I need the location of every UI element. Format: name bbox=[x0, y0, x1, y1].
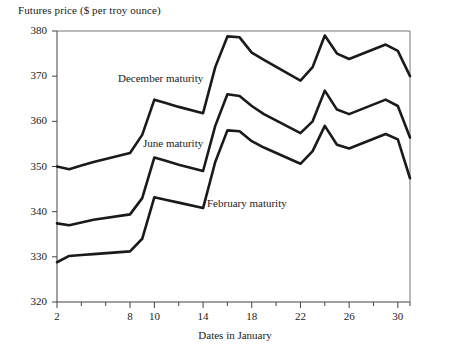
x-tick-label: 14 bbox=[188, 310, 218, 322]
y-tick-label: 350 bbox=[15, 160, 47, 172]
x-tick-label: 22 bbox=[285, 310, 315, 322]
x-tick-label: 10 bbox=[139, 310, 169, 322]
plot-frame bbox=[57, 31, 410, 302]
y-tick-label: 330 bbox=[15, 250, 47, 262]
y-tick-label: 380 bbox=[15, 24, 47, 36]
series-line-december bbox=[57, 36, 410, 170]
y-tick-label: 360 bbox=[15, 114, 47, 126]
x-tick-label: 26 bbox=[334, 310, 364, 322]
x-tick-label: 30 bbox=[383, 310, 413, 322]
plot-canvas bbox=[0, 0, 460, 357]
series-annotation: June maturity bbox=[143, 137, 203, 149]
x-tick-label: 18 bbox=[237, 310, 267, 322]
y-tick-label: 340 bbox=[15, 205, 47, 217]
axis-spines bbox=[57, 31, 410, 302]
series-annotation: February maturity bbox=[207, 197, 287, 209]
x-axis-title: Dates in January bbox=[0, 329, 460, 341]
y-tick-label: 370 bbox=[15, 69, 47, 81]
x-tick-label: 2 bbox=[42, 310, 72, 322]
series-annotation: December maturity bbox=[118, 72, 203, 84]
y-tick-label: 320 bbox=[15, 295, 47, 307]
x-axis-title-text: Dates in January bbox=[198, 329, 271, 341]
futures-price-chart: Futures price ($ per troy ounce) Dates i… bbox=[0, 0, 460, 357]
series-line-february bbox=[57, 126, 410, 262]
